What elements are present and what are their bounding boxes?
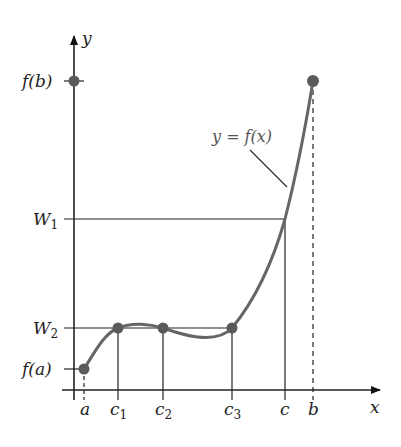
a-label: a xyxy=(80,399,90,419)
curve-label-pointer xyxy=(250,150,287,187)
point-c2 xyxy=(158,323,169,334)
w2-label: W2 xyxy=(33,318,58,341)
point-fa xyxy=(79,364,90,375)
point-c3 xyxy=(227,323,238,334)
w1-label: W1 xyxy=(33,209,58,232)
y-axis-label: y xyxy=(81,28,92,48)
b-label: b xyxy=(308,399,319,419)
c1-label: c1 xyxy=(110,399,127,422)
fb-label: f(b) xyxy=(20,71,52,91)
c3-label: c3 xyxy=(224,399,241,422)
c-label: c xyxy=(280,399,290,419)
fa-label: f(a) xyxy=(20,359,52,379)
point-b xyxy=(307,75,319,87)
c2-label: c2 xyxy=(155,399,172,422)
ivt-diagram: y x f(b) W1 W2 f(a) a c1 c2 c3 c b y = f… xyxy=(0,0,401,447)
point-fb-axis xyxy=(69,76,80,87)
curve-label: y = f(x) xyxy=(211,127,272,146)
point-c1 xyxy=(113,323,124,334)
x-axis-label: x xyxy=(370,397,380,417)
